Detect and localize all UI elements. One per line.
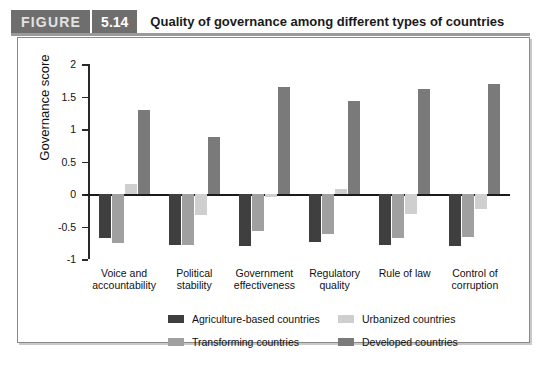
x-axis-category-label: Rule of law <box>370 267 440 279</box>
legend-item: Transforming countries <box>168 336 338 348</box>
bar <box>208 137 220 194</box>
chart-frame: Governance score 21.510.50-0.5-1 Voice a… <box>17 37 530 343</box>
bar-group-bars <box>159 64 229 259</box>
bar <box>125 184 137 194</box>
bar <box>138 110 150 194</box>
y-tick-label: -0.5 <box>34 221 76 233</box>
y-tick-label: 1 <box>34 123 76 135</box>
bar <box>309 194 321 242</box>
bar-group: Rule of law <box>370 64 440 259</box>
legend-label: Urbanized countries <box>362 313 455 325</box>
legend-swatch-icon <box>168 315 184 323</box>
bar <box>252 194 264 231</box>
x-axis-category-label: Government effectiveness <box>229 267 299 291</box>
bar <box>99 194 111 238</box>
legend-item: Agriculture-based countries <box>168 313 338 325</box>
bar-group-bars <box>229 64 299 259</box>
bar-group-bars <box>370 64 440 259</box>
bar <box>348 101 360 194</box>
bar <box>322 194 334 234</box>
y-tick-mark <box>82 259 88 261</box>
y-tick-label: -1 <box>34 253 76 265</box>
bar-group: Political stability <box>159 64 229 259</box>
x-axis-category-label: Control of corruption <box>440 267 510 291</box>
y-tick-mark <box>82 162 88 164</box>
legend-label: Developed countries <box>362 336 458 348</box>
y-tick-label: 0 <box>34 188 76 200</box>
bar <box>405 194 417 214</box>
legend-swatch-icon <box>338 338 354 346</box>
bar-group: Control of corruption <box>440 64 510 259</box>
bar <box>475 194 487 209</box>
x-axis-category-label: Political stability <box>159 267 229 291</box>
y-tick-mark <box>82 227 88 229</box>
bar <box>462 194 474 237</box>
bar-group: Regulatory quality <box>300 64 370 259</box>
bar <box>418 89 430 194</box>
x-axis-category-label: Regulatory quality <box>300 267 370 291</box>
legend-swatch-icon <box>168 338 184 346</box>
legend-item: Developed countries <box>338 336 508 348</box>
plot-area: Voice and accountabilityPolitical stabil… <box>89 64 510 259</box>
legend-label: Agriculture-based countries <box>192 313 320 325</box>
legend-label: Transforming countries <box>192 336 299 348</box>
figure-number-label: 5.14 <box>92 10 137 33</box>
header-underline <box>11 33 530 36</box>
figure-title: Quality of governance among different ty… <box>137 10 504 33</box>
bar <box>195 194 207 215</box>
caption-text <box>0 352 540 372</box>
figure-header-bar: FIGURE 5.14 Quality of governance among … <box>11 10 504 33</box>
bar-group: Government effectiveness <box>229 64 299 259</box>
bar <box>169 194 181 245</box>
bar <box>182 194 194 245</box>
bar <box>379 194 391 245</box>
bar <box>265 194 277 197</box>
bar <box>239 194 251 246</box>
bar <box>112 194 124 243</box>
y-tick-mark <box>82 64 88 66</box>
chart-legend: Agriculture-based countriesUrbanized cou… <box>168 313 508 348</box>
x-axis-category-label: Voice and accountability <box>89 267 159 291</box>
legend-item: Urbanized countries <box>338 313 508 325</box>
bar <box>278 87 290 194</box>
bar-group: Voice and accountability <box>89 64 159 259</box>
y-tick-mark <box>82 129 88 131</box>
bar <box>392 194 404 238</box>
y-tick-mark <box>82 97 88 99</box>
y-tick-label: 2 <box>34 58 76 70</box>
y-axis-title: Governance score <box>37 18 52 198</box>
y-tick-label: 1.5 <box>34 91 76 103</box>
bar <box>488 84 500 195</box>
bar-group-bars <box>440 64 510 259</box>
y-tick-label: 0.5 <box>34 156 76 168</box>
bar-group-bars <box>89 64 159 259</box>
bar <box>449 194 461 246</box>
legend-swatch-icon <box>338 315 354 323</box>
bar <box>335 189 347 194</box>
bar-group-bars <box>300 64 370 259</box>
